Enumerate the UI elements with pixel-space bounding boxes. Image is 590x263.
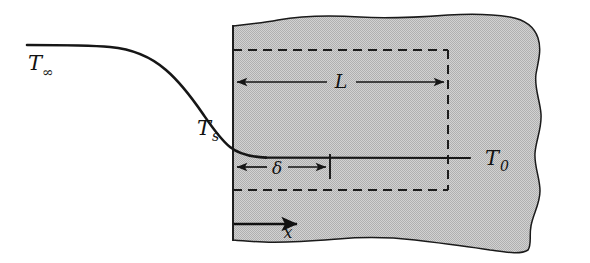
label-temperature-free-stream: T ∞ <box>28 51 54 80</box>
label-x-axis: x <box>283 223 292 242</box>
label-delta: δ <box>272 158 282 178</box>
curve-free-stream-to-surface <box>27 45 266 158</box>
t-0-base: T <box>485 146 501 170</box>
label-length-L: L <box>334 70 348 92</box>
t-infinity-subscript: ∞ <box>42 64 54 80</box>
thermal-boundary-layer-diagram: L δ x T ∞ T s T <box>0 0 590 263</box>
t-s-base: T <box>197 116 213 140</box>
t-0-subscript: 0 <box>500 158 509 174</box>
label-temperature-surface: T s <box>197 116 219 144</box>
t-s-subscript: s <box>212 128 219 144</box>
figure-root: L δ x T ∞ T s T <box>0 0 590 263</box>
